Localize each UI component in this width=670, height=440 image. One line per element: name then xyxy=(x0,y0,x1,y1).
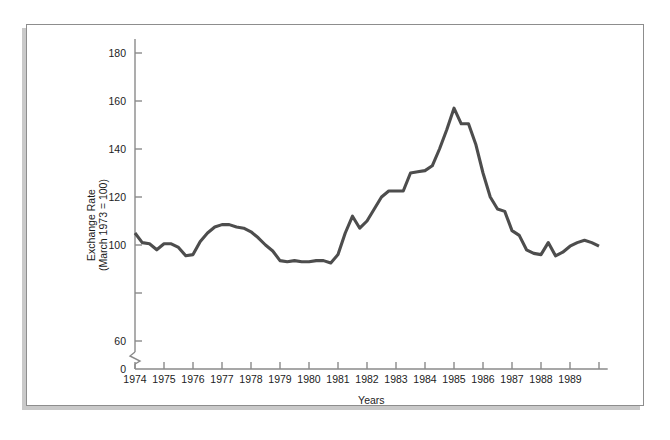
y-axis-tick-label: 140 xyxy=(108,143,126,155)
y-axis-tick-label: 180 xyxy=(108,47,126,59)
page-background: 060100120140160180 197419751976197719781… xyxy=(0,0,670,440)
x-axis-tick-label: 1980 xyxy=(297,373,321,385)
y-axis-tick-label: 100 xyxy=(108,239,126,251)
x-axis-tick-label: 1982 xyxy=(355,373,379,385)
x-axis-tick-label: 1983 xyxy=(384,373,408,385)
x-axis-tick-labels: 1974197519761977197819791980198119821983… xyxy=(123,373,582,385)
x-axis-tick-label: 1981 xyxy=(326,373,350,385)
x-axis-tick-label: 1984 xyxy=(413,373,437,385)
chart-plot-area: 060100120140160180 197419751976197719781… xyxy=(0,0,670,440)
y-axis-tick-label: 160 xyxy=(108,95,126,107)
y-axis-tick-labels: 060100120140160180 xyxy=(108,47,126,375)
x-axis-tick-label: 1986 xyxy=(471,373,495,385)
data-series-line xyxy=(135,108,599,263)
chart-svg: 060100120140160180 197419751976197719781… xyxy=(0,0,670,440)
x-axis-tick-label: 1979 xyxy=(268,373,292,385)
x-axis-ticks xyxy=(135,362,599,369)
y-axis-title-line2: (March 1973 = 100) xyxy=(97,179,109,271)
x-axis-title: Years xyxy=(358,394,384,406)
x-axis-tick-label: 1975 xyxy=(152,373,176,385)
y-axis-tick-label: 60 xyxy=(114,335,126,347)
x-axis-tick-label: 1985 xyxy=(442,373,466,385)
x-axis-tick-label: 1978 xyxy=(239,373,263,385)
y-axis-ticks xyxy=(135,53,142,341)
x-axis-tick-label: 1987 xyxy=(500,373,524,385)
x-axis-tick-label: 1989 xyxy=(558,373,582,385)
x-axis-tick-label: 1977 xyxy=(210,373,234,385)
x-axis-tick-label: 1974 xyxy=(123,373,147,385)
x-axis-tick-label: 1976 xyxy=(181,373,205,385)
y-axis-title-line1: Exchange Rate xyxy=(85,189,97,261)
y-axis-tick-label: 120 xyxy=(108,191,126,203)
x-axis-tick-label: 1988 xyxy=(529,373,553,385)
